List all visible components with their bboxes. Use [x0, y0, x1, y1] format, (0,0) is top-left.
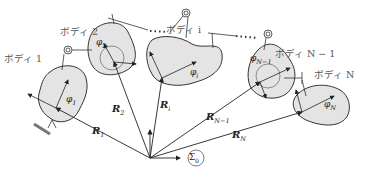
vector-sub: N−1	[214, 117, 229, 125]
vector-rn-1: RN−1	[206, 112, 230, 125]
body-2-label: ボディ 2	[60, 27, 98, 37]
body-n-1-label: ボディ N − 1	[275, 49, 335, 59]
angle-phi-n-1: φN−1	[250, 54, 272, 65]
frame-sub: 0	[195, 157, 199, 164]
vector-ri: Ri	[160, 100, 170, 113]
vector-sub: i	[168, 105, 170, 113]
body-i-label: ボディ i	[166, 25, 201, 35]
vector-r1: R1	[92, 126, 104, 139]
angle-sub: i	[196, 72, 198, 80]
vector-sub: 2	[120, 109, 124, 117]
vector-sub: N	[240, 135, 246, 143]
vector-r2: R2	[112, 104, 124, 117]
angle-sub: N−1	[256, 58, 271, 66]
base-frame-label: Σ0	[189, 153, 199, 164]
body-i-shape	[147, 37, 222, 86]
vector-rn: RN	[232, 130, 246, 143]
body-n-label: ボディ N	[314, 70, 354, 80]
angle-phi-1: φ1	[66, 95, 76, 106]
body-1-label: ボディ 1	[4, 54, 42, 64]
angle-sub: N	[330, 104, 336, 112]
body-1-shape	[38, 66, 87, 122]
vector-sub: 1	[100, 131, 104, 139]
body-n-shape	[293, 85, 349, 125]
angle-phi-n: φN	[324, 100, 336, 111]
angle-phi-i: φi	[190, 68, 198, 79]
ground-support-icon	[34, 120, 56, 134]
angle-sub: 2	[102, 42, 106, 50]
multibody-diagram: ボディ 1 ボディ 2 ボディ i ボディ N − 1 ボディ N φ1 φ2 …	[0, 0, 373, 174]
angle-sub: 1	[72, 99, 76, 107]
angle-phi-2: φ2	[96, 38, 106, 49]
